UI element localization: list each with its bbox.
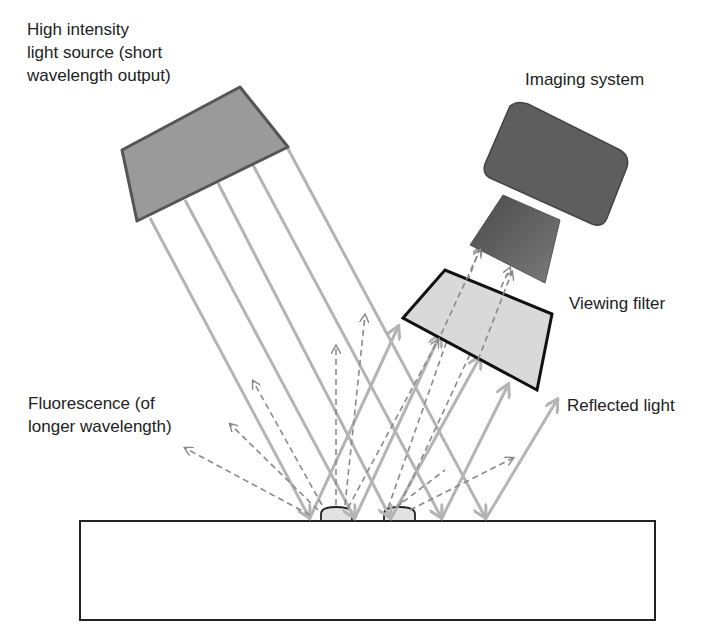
- fluorescence-imaging-diagram: [0, 0, 711, 639]
- viewing-filter-label: Viewing filter: [569, 292, 665, 315]
- light-source-label-line-3: wavelength output): [27, 64, 171, 87]
- fluorescence-label: Fluorescence (of longer wavelength): [28, 392, 172, 438]
- light-source-label: High intensity light source (short wavel…: [27, 18, 171, 87]
- fluorescent-particles: [321, 507, 415, 521]
- reflected-light-label: Reflected light: [567, 394, 675, 417]
- imaging-system-label: Imaging system: [525, 68, 644, 91]
- sample-surface: [80, 521, 655, 620]
- light-source: [122, 87, 288, 221]
- fluorescence-label-line-1: Fluorescence (of: [28, 392, 172, 415]
- light-source-label-line-1: High intensity: [27, 18, 171, 41]
- viewing-filter: [403, 270, 552, 390]
- fluorescence-label-line-2: longer wavelength): [28, 415, 172, 438]
- camera-lens: [470, 195, 560, 283]
- light-source-label-line-2: light source (short: [27, 41, 171, 64]
